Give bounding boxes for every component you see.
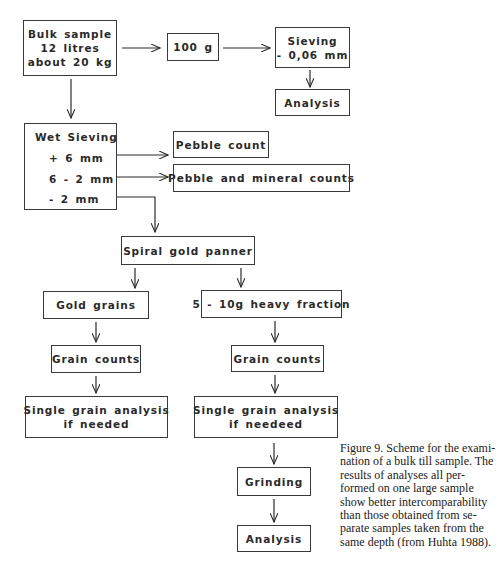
- bulk-sample-volume: 12 litres: [40, 41, 99, 55]
- analysis-top-label: Analysis: [284, 96, 340, 110]
- single-grain-left-label: Single grain analysis: [23, 403, 169, 417]
- grain-counts-left-label: Grain counts: [52, 352, 140, 366]
- analysis-bottom-label: Analysis: [246, 532, 302, 546]
- node-spiral-gold-panner: Spiral gold panner: [121, 236, 255, 265]
- figure-caption: Figure 9. Scheme for the exami- nation o…: [340, 442, 504, 549]
- fraction-plus-6mm: + 6 mm: [49, 152, 104, 164]
- grain-counts-right-label: Grain counts: [233, 352, 321, 366]
- caption-line: than those obtained from se-: [340, 509, 504, 522]
- node-gold-grains: Gold grains: [43, 291, 149, 319]
- node-100g: 100 g: [167, 33, 219, 61]
- single-grain-left-note: if needed: [64, 417, 130, 431]
- caption-line: formed on one large sample: [340, 482, 504, 495]
- node-grain-counts-right: Grain counts: [231, 345, 324, 372]
- node-100g-label: 100 g: [173, 40, 213, 54]
- wet-sieving-title: Wet Sieving: [35, 131, 118, 143]
- single-grain-right-label: Single grain analysis: [193, 403, 339, 417]
- caption-line: parate samples taken from the: [340, 522, 504, 535]
- sieving-size: - 0,06 mm: [277, 48, 349, 62]
- bulk-sample-weight: about 20 kg: [28, 55, 113, 69]
- fraction-minus-2mm: - 2 mm: [49, 193, 99, 205]
- caption-line: show better intercomparability: [340, 496, 504, 509]
- flowchart-diagram: Bulk sample 12 litres about 20 kg 100 g …: [0, 0, 504, 580]
- pebble-count-label: Pebble count: [176, 138, 266, 152]
- fraction-6-2mm: 6 - 2 mm: [49, 173, 114, 185]
- gold-grains-label: Gold grains: [56, 298, 136, 312]
- node-pebble-mineral-counts: Pebble and mineral counts: [173, 164, 350, 192]
- caption-line: same depth (from Huhta 1988).: [340, 536, 504, 549]
- caption-line: results of analyses all per-: [340, 469, 504, 482]
- heavy-fraction-label: 5 - 10g heavy fraction: [193, 297, 351, 311]
- node-grain-counts-left: Grain counts: [51, 345, 141, 373]
- single-grain-right-note: if needeed: [229, 417, 303, 431]
- node-sieving: Sieving - 0,06 mm: [275, 27, 350, 68]
- node-pebble-count: Pebble count: [173, 131, 269, 158]
- node-heavy-fraction: 5 - 10g heavy fraction: [201, 290, 342, 318]
- grinding-label: Grinding: [245, 475, 303, 489]
- caption-line: nation of a bulk till sample. The: [340, 455, 504, 468]
- sieving-label: Sieving: [287, 34, 337, 48]
- node-bulk-sample: Bulk sample 12 litres about 20 kg: [23, 20, 117, 76]
- node-single-grain-left: Single grain analysis if needed: [25, 396, 168, 438]
- bulk-sample-label: Bulk sample: [28, 27, 112, 41]
- node-grinding: Grinding: [237, 467, 311, 496]
- node-analysis-bottom: Analysis: [237, 525, 311, 552]
- caption-line: Figure 9. Scheme for the exami-: [340, 442, 504, 455]
- spiral-panner-label: Spiral gold panner: [123, 244, 253, 258]
- node-wet-sieving: Wet Sieving + 6 mm 6 - 2 mm - 2 mm: [24, 123, 117, 210]
- node-single-grain-right: Single grain analysis if needeed: [194, 396, 338, 438]
- node-analysis-top: Analysis: [275, 89, 350, 116]
- pebble-mineral-label: Pebble and mineral counts: [168, 171, 355, 185]
